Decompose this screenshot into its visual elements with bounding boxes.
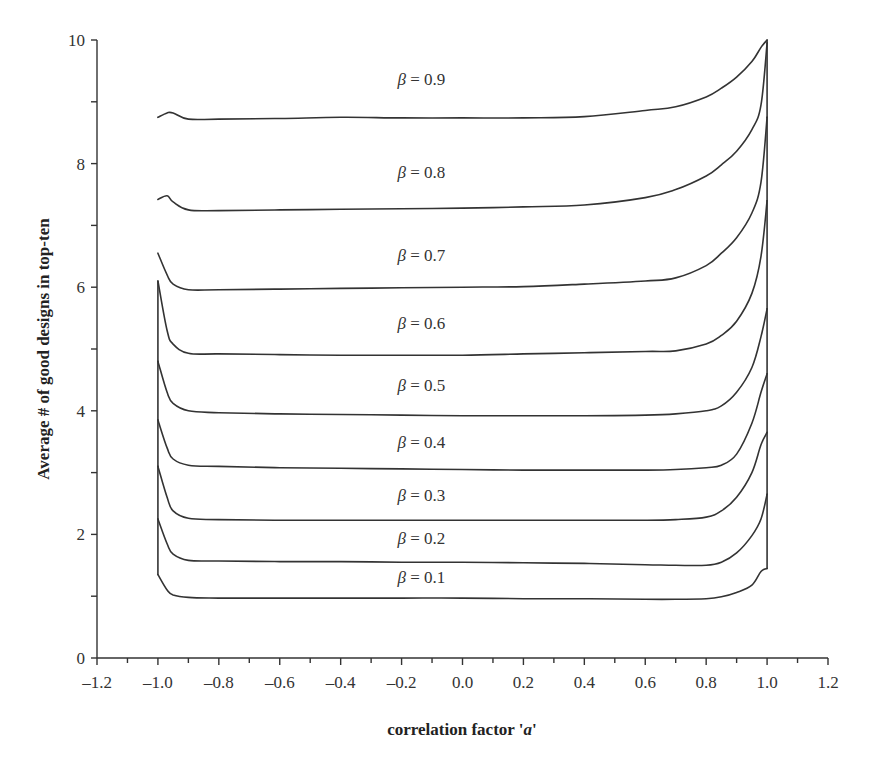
curve-label: β = 0.1 (397, 568, 446, 587)
y-axis-title: Average # of good designs in top-ten (34, 218, 53, 480)
x-tick-label: 1.0 (756, 673, 777, 692)
curve-beta-0.9 (158, 40, 767, 120)
y-tick-label: 10 (68, 31, 85, 50)
x-tick-label: –0.2 (386, 673, 417, 692)
x-axis-title: correlation factor 'a' (387, 720, 537, 739)
x-tick-label: 0.8 (696, 673, 717, 692)
curve-beta-0.7 (158, 117, 767, 290)
curve-beta-0.8 (158, 43, 767, 211)
curve-label: β = 0.2 (397, 529, 446, 548)
curve-beta-0.5 (158, 309, 767, 416)
curve-beta-0.1 (158, 568, 767, 599)
curve-label: β = 0.3 (397, 486, 446, 505)
y-axis: 0246810 (68, 31, 97, 668)
curve-beta-0.2 (158, 494, 767, 565)
x-tick-label: –0.6 (264, 673, 295, 692)
curve-label: β = 0.8 (397, 163, 446, 182)
x-tick-label: –0.8 (203, 673, 234, 692)
y-tick-label: 0 (77, 649, 86, 668)
curve-label: β = 0.4 (397, 433, 446, 452)
x-tick-label: –0.4 (325, 673, 356, 692)
y-tick-label: 6 (77, 278, 86, 297)
y-tick-label: 8 (77, 155, 86, 174)
curve-beta-0.4 (158, 374, 767, 470)
x-tick-label: 0.4 (574, 673, 596, 692)
x-tick-label: 1.2 (817, 673, 838, 692)
x-axis: –1.2–1.0–0.8–0.6–0.4–0.20.00.20.40.60.81… (81, 658, 839, 692)
curve-label: β = 0.6 (397, 314, 446, 333)
x-tick-label: –1.2 (81, 673, 112, 692)
y-tick-label: 4 (77, 402, 86, 421)
x-tick-label: 0.6 (635, 673, 656, 692)
line-chart: 0246810 –1.2–1.0–0.8–0.6–0.4–0.20.00.20.… (0, 0, 882, 768)
curve-label: β = 0.7 (397, 246, 446, 265)
x-tick-label: –1.0 (142, 673, 173, 692)
y-tick-label: 2 (77, 525, 86, 544)
curve-beta-0.3 (158, 432, 767, 520)
curve-labels: β = 0.9β = 0.8β = 0.7β = 0.6β = 0.5β = 0… (397, 70, 446, 586)
x-tick-label: 0.0 (452, 673, 473, 692)
curve-label: β = 0.9 (397, 70, 446, 89)
curves (158, 40, 767, 599)
curve-label: β = 0.5 (397, 376, 446, 395)
x-tick-label: 0.2 (513, 673, 534, 692)
